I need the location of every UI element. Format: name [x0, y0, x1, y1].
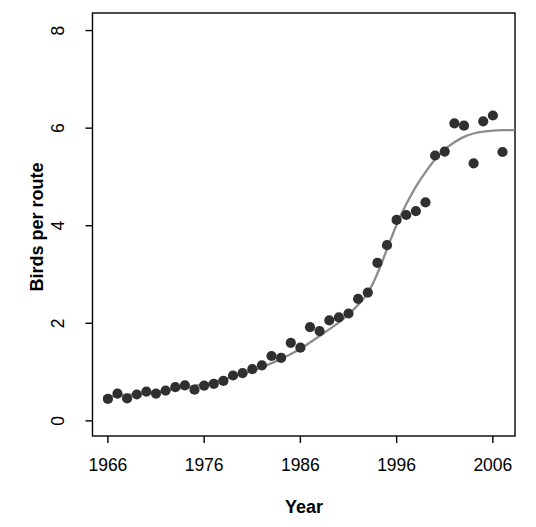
data-point [343, 308, 353, 318]
data-point [392, 215, 402, 225]
data-point [141, 387, 151, 397]
data-point [103, 394, 113, 404]
data-point [353, 294, 363, 304]
y-tick-label: 6 [48, 123, 68, 133]
data-point [488, 110, 498, 120]
data-point [401, 210, 411, 220]
data-point [430, 150, 440, 160]
x-tick-label: 2006 [473, 455, 512, 475]
data-point [170, 382, 180, 392]
data-point [209, 379, 219, 389]
data-point [334, 312, 344, 322]
data-point [228, 370, 238, 380]
x-tick-label: 1976 [185, 455, 224, 475]
plot-generated-layer: 1966197619861996200602468 [48, 13, 515, 475]
data-point [122, 393, 132, 403]
data-point [132, 389, 142, 399]
y-tick-label: 8 [48, 26, 68, 36]
x-axis-title: Year [285, 497, 323, 517]
data-point [478, 116, 488, 126]
plot-box [93, 13, 516, 436]
data-point [161, 386, 171, 396]
y-tick-label: 4 [48, 221, 68, 231]
y-axis-title: Birds per route [27, 162, 47, 291]
data-point [238, 368, 248, 378]
data-point [324, 315, 334, 325]
x-tick-label: 1966 [88, 455, 127, 475]
data-point [180, 380, 190, 390]
data-point [372, 258, 382, 268]
data-point [305, 322, 315, 332]
data-point [295, 343, 305, 353]
chart-canvas: 1966197619861996200602468 Birds per rout… [0, 0, 536, 527]
data-point [151, 389, 161, 399]
data-point [257, 360, 267, 370]
data-point [363, 288, 373, 298]
x-tick-label: 1986 [281, 455, 320, 475]
data-point [411, 206, 421, 216]
data-point [497, 147, 507, 157]
data-point [286, 338, 296, 348]
trend-curve [104, 130, 514, 397]
data-point [382, 240, 392, 250]
data-point [199, 381, 209, 391]
data-point [459, 121, 469, 131]
data-point [266, 351, 276, 361]
y-tick-label: 0 [48, 416, 68, 426]
y-tick-label: 2 [48, 318, 68, 328]
data-point [276, 353, 286, 363]
data-point [440, 147, 450, 157]
data-point [315, 326, 325, 336]
data-point [112, 389, 122, 399]
data-point [469, 158, 479, 168]
data-point [449, 118, 459, 128]
data-point [189, 385, 199, 395]
birds-per-route-scatter-plot: 1966197619861996200602468 Birds per rout… [0, 0, 536, 527]
data-point [218, 376, 228, 386]
data-point [420, 197, 430, 207]
x-tick-label: 1996 [377, 455, 416, 475]
data-point [247, 364, 257, 374]
